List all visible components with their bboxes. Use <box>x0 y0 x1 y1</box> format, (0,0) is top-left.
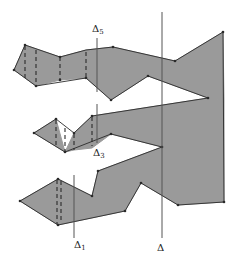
delta-label: Δ <box>157 242 164 253</box>
vertex-dot <box>207 97 210 100</box>
bottom-arm-fill <box>20 147 224 225</box>
vertex-dot <box>64 151 67 154</box>
vertex-dot <box>85 77 88 80</box>
vertex-dot <box>110 133 113 136</box>
vertex-dot <box>91 115 94 118</box>
vertex-dot <box>13 69 16 72</box>
polygon-group <box>14 32 224 225</box>
vertex-dot <box>124 210 127 213</box>
vertex-dot <box>55 118 58 121</box>
delta-1-label: Δ1 <box>74 239 86 252</box>
vertex-dot <box>140 182 143 185</box>
vertex-dot <box>223 201 226 204</box>
vertex-dot <box>24 44 27 47</box>
vertex-dot <box>57 178 60 181</box>
vertex-dot <box>73 132 76 135</box>
vertex-dot <box>57 224 60 227</box>
vertex-dot <box>59 56 62 59</box>
vertex-dot <box>147 75 150 78</box>
vertex-dot <box>177 204 180 207</box>
vertex-dot <box>222 31 225 34</box>
vertex-dot <box>97 170 100 173</box>
vertex-dot <box>174 60 177 63</box>
vertex-dot <box>91 195 94 198</box>
vertex-dot <box>110 99 113 102</box>
vertex-dot <box>33 132 36 135</box>
delta-5-label: Δ5 <box>92 23 104 36</box>
top-arm-fill <box>14 32 224 100</box>
vertex-dot <box>112 46 115 49</box>
vertex-dot <box>19 200 22 203</box>
vertex-dot <box>35 85 38 88</box>
vertex-dot <box>59 79 62 82</box>
diagram-canvas: Δ5Δ3Δ1Δ <box>0 0 237 264</box>
middle-arm-fill <box>34 98 224 152</box>
delta-3-label: Δ3 <box>93 147 105 160</box>
